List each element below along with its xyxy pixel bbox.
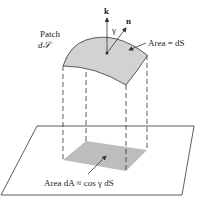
surface-area-diagram: k n γ Patch d𝒮 Area = dS Area dA ≈ cos γ… <box>0 0 203 205</box>
n-label: n <box>126 16 131 26</box>
area-ds-label: Area = dS <box>148 38 185 48</box>
patch-label: Patch <box>40 29 60 39</box>
k-label: k <box>104 6 109 16</box>
patch-symbol-label: d𝒮 <box>38 40 53 50</box>
projected-region-dA <box>63 141 147 171</box>
area-da-label: Area dA ≈ cos γ dS <box>44 178 114 188</box>
gamma-label: γ <box>111 25 116 35</box>
surface-patch-dS <box>63 37 147 85</box>
